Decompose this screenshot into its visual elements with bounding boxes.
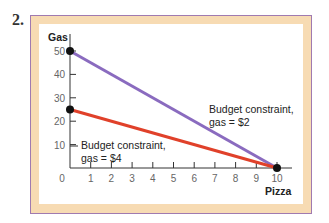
svg-text:20: 20 — [54, 116, 66, 127]
budget-constraint-chart: 50 40 30 20 10 0 1 2 3 4 5 6 7 8 9 10 Ga… — [0, 0, 329, 223]
svg-text:6: 6 — [191, 173, 197, 184]
svg-text:7: 7 — [212, 173, 218, 184]
point-marker — [66, 47, 74, 55]
annotation-gas-4: Budget constraint, gas = $4 — [70, 139, 166, 164]
svg-text:0: 0 — [59, 173, 65, 184]
svg-text:50: 50 — [54, 46, 66, 57]
point-marker — [66, 106, 74, 114]
point-marker — [273, 164, 281, 172]
y-ticks: 50 40 30 20 10 — [54, 46, 76, 151]
svg-text:10: 10 — [271, 173, 283, 184]
svg-text:3: 3 — [129, 173, 135, 184]
svg-text:Budget constraint,: Budget constraint, — [209, 103, 294, 115]
svg-text:gas = $2: gas = $2 — [209, 116, 250, 128]
y-axis-label: Gas — [48, 31, 68, 43]
svg-text:8: 8 — [233, 173, 239, 184]
svg-text:gas = $4: gas = $4 — [81, 152, 122, 164]
svg-text:30: 30 — [54, 93, 66, 104]
svg-text:2: 2 — [109, 173, 115, 184]
svg-text:10: 10 — [54, 140, 66, 151]
svg-text:1: 1 — [88, 173, 94, 184]
svg-text:40: 40 — [54, 69, 66, 80]
svg-text:5: 5 — [171, 173, 177, 184]
x-axis-label: Pizza — [265, 185, 291, 197]
annotation-gas-2: Budget constraint, gas = $2 — [209, 103, 294, 128]
svg-text:9: 9 — [254, 173, 260, 184]
x-ticks: 0 1 2 3 4 5 6 7 8 9 10 — [59, 162, 283, 184]
svg-text:4: 4 — [150, 173, 156, 184]
svg-text:Budget constraint,: Budget constraint, — [81, 139, 166, 151]
